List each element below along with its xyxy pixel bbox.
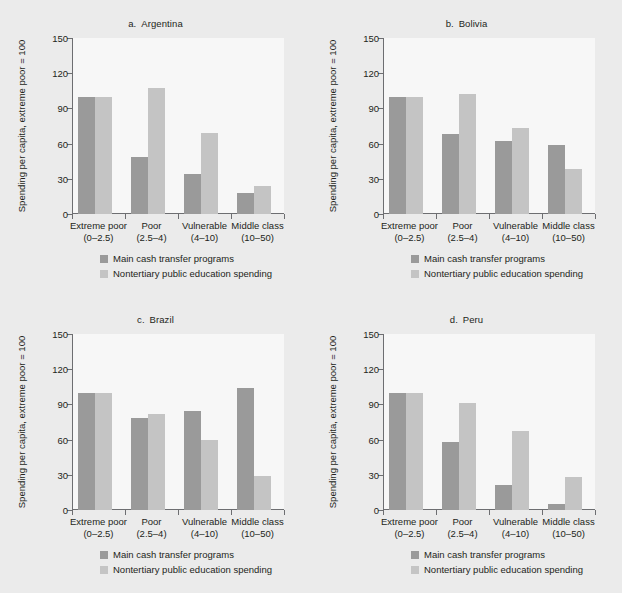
bar bbox=[201, 440, 218, 510]
bar-group: Vulnerable(4–10) bbox=[489, 38, 542, 214]
x-axis-tick bbox=[436, 214, 437, 219]
category-name: Middle class bbox=[542, 220, 594, 232]
bar-group: Middle class(10–50) bbox=[231, 334, 284, 510]
bar-group: Extreme poor(0–2.5) bbox=[72, 38, 125, 214]
y-axis-tick-label: 150 bbox=[52, 33, 68, 44]
x-axis-tick bbox=[178, 214, 179, 219]
bar bbox=[495, 141, 512, 214]
y-axis-title-text: Spending per capita, extreme poor = 100 bbox=[16, 40, 27, 212]
bar bbox=[442, 442, 459, 510]
y-axis-tick-label: 30 bbox=[368, 173, 379, 184]
x-axis-tick bbox=[489, 214, 490, 219]
y-axis-tick-label: 0 bbox=[63, 505, 68, 516]
y-axis-tick-label: 60 bbox=[57, 434, 68, 445]
bar bbox=[254, 476, 271, 510]
y-axis-title: Spending per capita, extreme poor = 100 bbox=[14, 334, 28, 510]
x-axis-category-label: Middle class(10–50) bbox=[542, 220, 594, 244]
bar bbox=[184, 174, 201, 214]
y-axis-tick-label: 90 bbox=[57, 103, 68, 114]
y-axis-title-text: Spending per capita, extreme poor = 100 bbox=[16, 336, 27, 508]
legend-swatch-icon bbox=[411, 255, 419, 263]
bar bbox=[78, 393, 95, 510]
category-range: (10–50) bbox=[231, 232, 283, 244]
legend-swatch-icon bbox=[100, 566, 108, 574]
bar bbox=[237, 193, 254, 214]
y-axis-tick-label: 120 bbox=[52, 68, 68, 79]
x-axis-tick bbox=[489, 510, 490, 515]
x-axis-category-label: Poor(2.5–4) bbox=[136, 220, 166, 244]
legend: Main cash transfer programsNontertiary p… bbox=[100, 252, 272, 282]
panel-title: c. Brazil bbox=[0, 314, 311, 325]
legend-swatch-icon bbox=[100, 551, 108, 559]
panel-title: a. Argentina bbox=[0, 18, 311, 29]
y-axis-tick-label: 90 bbox=[368, 103, 379, 114]
x-axis-tick bbox=[125, 214, 126, 219]
bar bbox=[254, 186, 271, 214]
y-axis-tick-label: 150 bbox=[363, 329, 379, 340]
x-axis-tick bbox=[542, 214, 543, 219]
category-range: (2.5–4) bbox=[447, 528, 477, 540]
category-range: (2.5–4) bbox=[136, 232, 166, 244]
x-axis-tick bbox=[231, 214, 232, 219]
category-range: (4–10) bbox=[182, 528, 227, 540]
bar bbox=[406, 393, 423, 510]
panel-title: d. Peru bbox=[311, 314, 622, 325]
plot-area: 0306090120150Extreme poor(0–2.5)Poor(2.5… bbox=[72, 38, 284, 214]
bar-group: Middle class(10–50) bbox=[542, 38, 595, 214]
legend-item: Nontertiary public education spending bbox=[411, 267, 583, 280]
category-name: Vulnerable bbox=[182, 220, 227, 232]
bar bbox=[406, 97, 423, 214]
x-axis-category-label: Extreme poor(0–2.5) bbox=[70, 516, 127, 540]
bar-group: Extreme poor(0–2.5) bbox=[383, 334, 436, 510]
legend-item: Nontertiary public education spending bbox=[411, 563, 583, 576]
category-range: (10–50) bbox=[542, 232, 594, 244]
category-range: (4–10) bbox=[182, 232, 227, 244]
x-axis-category-label: Vulnerable(4–10) bbox=[182, 516, 227, 540]
x-axis-tick bbox=[436, 510, 437, 515]
y-axis-title-text: Spending per capita, extreme poor = 100 bbox=[327, 336, 338, 508]
bar bbox=[389, 393, 406, 510]
x-axis-category-label: Poor(2.5–4) bbox=[136, 516, 166, 540]
legend-swatch-icon bbox=[411, 270, 419, 278]
bar-group: Extreme poor(0–2.5) bbox=[72, 334, 125, 510]
y-axis-tick-label: 0 bbox=[374, 505, 379, 516]
bar bbox=[237, 388, 254, 510]
chart-panel-1: a. ArgentinaSpending per capita, extreme… bbox=[0, 0, 311, 296]
y-axis-title-text: Spending per capita, extreme poor = 100 bbox=[327, 40, 338, 212]
bar bbox=[495, 485, 512, 510]
bar-group: Extreme poor(0–2.5) bbox=[383, 38, 436, 214]
y-axis-tick-label: 120 bbox=[52, 364, 68, 375]
category-name: Middle class bbox=[231, 220, 283, 232]
x-axis-tick bbox=[178, 510, 179, 515]
category-name: Middle class bbox=[542, 516, 594, 528]
category-range: (4–10) bbox=[493, 232, 538, 244]
x-axis-tick bbox=[595, 510, 596, 515]
legend-item: Nontertiary public education spending bbox=[100, 563, 272, 576]
y-axis-tick-label: 90 bbox=[368, 399, 379, 410]
bar bbox=[512, 431, 529, 510]
bar bbox=[148, 414, 165, 510]
x-axis-tick bbox=[231, 510, 232, 515]
legend: Main cash transfer programsNontertiary p… bbox=[411, 548, 583, 578]
bar-group: Poor(2.5–4) bbox=[125, 38, 178, 214]
y-axis-tick-label: 90 bbox=[57, 399, 68, 410]
bar bbox=[442, 134, 459, 214]
y-axis-tick-label: 30 bbox=[57, 469, 68, 480]
bar bbox=[389, 97, 406, 214]
x-axis-tick bbox=[542, 510, 543, 515]
category-range: (2.5–4) bbox=[136, 528, 166, 540]
figure-multi-panel-bar-charts: a. ArgentinaSpending per capita, extreme… bbox=[0, 0, 622, 593]
bar bbox=[131, 418, 148, 510]
x-axis-category-label: Extreme poor(0–2.5) bbox=[70, 220, 127, 244]
x-axis-category-label: Extreme poor(0–2.5) bbox=[381, 516, 438, 540]
bar bbox=[565, 477, 582, 510]
x-axis-tick bbox=[125, 510, 126, 515]
y-axis-tick-label: 60 bbox=[368, 434, 379, 445]
bar bbox=[148, 88, 165, 214]
category-range: (4–10) bbox=[493, 528, 538, 540]
category-range: (0–2.5) bbox=[381, 232, 438, 244]
legend-label: Main cash transfer programs bbox=[113, 252, 234, 265]
legend-swatch-icon bbox=[100, 270, 108, 278]
bar-group: Vulnerable(4–10) bbox=[489, 334, 542, 510]
y-axis-tick-label: 30 bbox=[368, 469, 379, 480]
